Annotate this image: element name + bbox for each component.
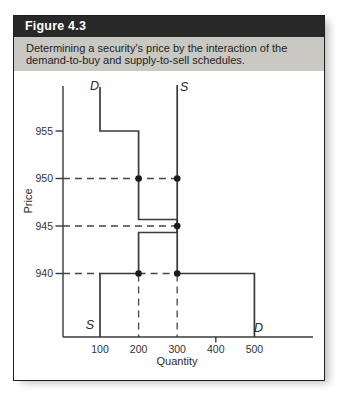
- x-tick-label-200: 200: [130, 343, 148, 355]
- marker-q200-p940: [135, 270, 142, 277]
- x-tick-label-500: 500: [246, 343, 264, 355]
- price-quantity-chart: 955950945940100200300400500: [0, 0, 341, 403]
- x-tick-label-400: 400: [207, 343, 225, 355]
- demand-curve-label-top: D: [83, 79, 99, 93]
- supply-curve-label-bottom: S: [78, 318, 94, 332]
- x-tick-label-300: 300: [168, 343, 186, 355]
- demand-curve-label-bottom: D: [254, 321, 270, 335]
- x-tick-label-100: 100: [91, 343, 109, 355]
- marker-q300-p940: [174, 270, 181, 277]
- y-tick-label-940: 940: [35, 267, 53, 279]
- marker-q200-p950: [135, 175, 142, 182]
- marker-q300-p945: [174, 223, 181, 230]
- x-axis-title: Quantity: [152, 355, 202, 367]
- supply-curve-label-top: S: [180, 80, 196, 94]
- marker-q300-p950: [174, 175, 181, 182]
- page: Figure 4.3 Determining a security's pric…: [0, 0, 341, 403]
- y-axis-title: Price: [22, 181, 34, 221]
- y-tick-label-950: 950: [35, 172, 53, 184]
- y-tick-label-945: 945: [35, 220, 53, 232]
- y-tick-label-955: 955: [35, 125, 53, 137]
